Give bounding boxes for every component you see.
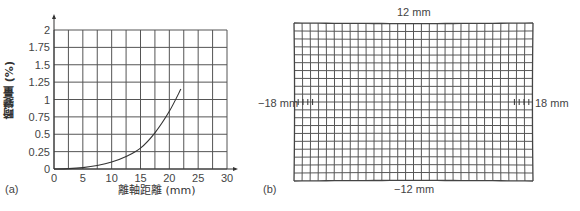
- svg-text:0.5: 0.5: [35, 128, 50, 140]
- svg-text:1.5: 1.5: [35, 59, 50, 71]
- svg-text:0: 0: [44, 163, 50, 175]
- panel-label-a: (a): [5, 183, 18, 195]
- chart-panel-b: 12 mm −12 mm −18 mm 18 mm (b): [260, 0, 580, 211]
- svg-text:0: 0: [51, 172, 57, 184]
- svg-text:10: 10: [106, 172, 118, 184]
- top-label: 12 mm: [397, 6, 431, 18]
- left-label: −18 mm: [258, 97, 298, 109]
- chart-panel-a: 00.250.50.7511.251.51.752051015202530 畸變…: [0, 0, 260, 211]
- right-label: 18 mm: [535, 97, 569, 109]
- svg-text:5: 5: [80, 172, 86, 184]
- distortion-grid: [260, 0, 580, 211]
- svg-text:0.75: 0.75: [29, 111, 50, 123]
- svg-text:2: 2: [44, 24, 50, 36]
- svg-text:0.25: 0.25: [29, 146, 50, 158]
- svg-text:1.25: 1.25: [29, 76, 50, 88]
- bottom-label: −12 mm: [394, 183, 434, 195]
- svg-text:1: 1: [44, 94, 50, 106]
- svg-text:30: 30: [221, 172, 233, 184]
- distortion-chart: 00.250.50.7511.251.51.752051015202530: [0, 0, 260, 211]
- y-axis-label: 畸變量 (%): [2, 40, 22, 140]
- svg-text:1.75: 1.75: [29, 41, 50, 53]
- x-axis-label: 離軸距離 (mm): [118, 181, 196, 197]
- panel-label-b: (b): [263, 183, 276, 195]
